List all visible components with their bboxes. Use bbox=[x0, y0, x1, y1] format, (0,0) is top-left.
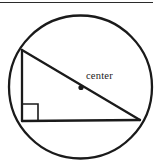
circle-triangle-diagram: center bbox=[0, 0, 160, 165]
center-point-dot bbox=[78, 85, 83, 90]
center-label: center bbox=[86, 70, 113, 81]
right-angle-marker-icon bbox=[23, 104, 38, 120]
triangle-leg-horizontal bbox=[22, 120, 140, 121]
geometry-figure: center bbox=[0, 0, 160, 165]
